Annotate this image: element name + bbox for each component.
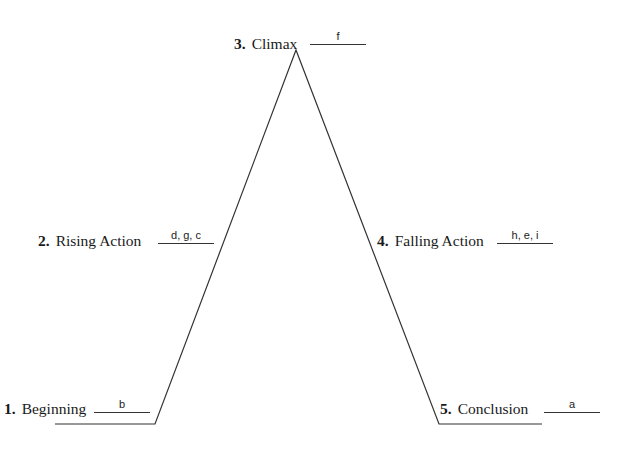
answer-text: d, g, c [171, 229, 201, 241]
stage-number: 4. [377, 232, 389, 249]
stage-beginning: 1.Beginning [4, 400, 86, 418]
stage-rising-action: 2.Rising Action [38, 232, 141, 250]
answer-blank-climax[interactable]: f [310, 30, 366, 45]
answer-text: a [569, 398, 575, 410]
answer-blank-falling-action[interactable]: h, e, i [497, 229, 553, 244]
stage-number: 1. [4, 400, 16, 417]
answer-blank-beginning[interactable]: b [94, 398, 150, 413]
stage-label: Climax [252, 35, 298, 52]
stage-number: 5. [440, 400, 452, 417]
stage-number: 2. [38, 232, 50, 249]
stage-label: Beginning [22, 400, 87, 417]
answer-text: b [119, 398, 125, 410]
stage-label: Falling Action [395, 232, 484, 249]
answer-blank-rising-action[interactable]: d, g, c [158, 229, 214, 244]
plot-diagram [0, 0, 620, 449]
answer-blank-conclusion[interactable]: a [544, 398, 600, 413]
answer-text: f [336, 30, 339, 42]
answer-text: h, e, i [512, 229, 539, 241]
stage-number: 3. [234, 35, 246, 52]
stage-falling-action: 4.Falling Action [377, 232, 484, 250]
stage-label: Conclusion [458, 400, 529, 417]
stage-label: Rising Action [56, 232, 142, 249]
stage-conclusion: 5.Conclusion [440, 400, 528, 418]
stage-climax: 3.Climax [234, 35, 297, 53]
